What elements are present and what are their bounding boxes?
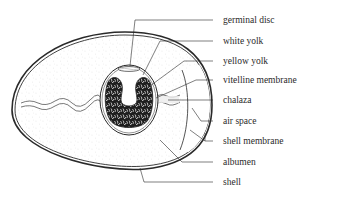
label-albumen: albumen — [223, 157, 256, 167]
label-yellow-yolk: yellow yolk — [223, 56, 268, 66]
label-shell-membrane: shell membrane — [223, 136, 283, 146]
label-air-space: air space — [223, 116, 257, 126]
egg-diagram — [0, 0, 340, 199]
label-vitelline-membrane: vitelline membrane — [223, 75, 297, 85]
label-chalaza: chalaza — [223, 95, 251, 105]
label-white-yolk: white yolk — [223, 36, 263, 46]
label-shell: shell — [223, 177, 241, 187]
leader-shell — [140, 168, 213, 182]
label-germinal-disc: germinal disc — [223, 15, 274, 25]
